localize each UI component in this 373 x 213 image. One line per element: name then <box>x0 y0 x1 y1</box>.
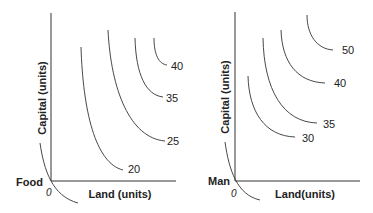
y-axis-label: Capital (units) <box>36 61 48 135</box>
isoquant-label: 25 <box>167 135 179 147</box>
isoquant-label: 20 <box>128 163 140 175</box>
product-label: Food <box>16 176 43 188</box>
product-label: Man <box>208 175 230 187</box>
isoquant-label: 30 <box>302 132 314 144</box>
panel-man: 30 35 40 50 Capital (units) Land(units) … <box>208 12 360 200</box>
y-axis-label: Capital (units) <box>219 60 231 134</box>
isoquant-35 <box>263 38 317 123</box>
isoquant-label: 40 <box>171 60 183 72</box>
x-axis-label: Land(units) <box>275 188 335 200</box>
isoquant-50 <box>307 15 333 50</box>
isoquant-35 <box>135 38 163 97</box>
isoquant-label: 35 <box>166 92 178 104</box>
isoquant-20 <box>81 47 123 170</box>
origin-label: 0 <box>231 188 237 199</box>
x-axis-label: Land (units) <box>89 188 152 200</box>
isoquant-label: 50 <box>342 44 354 56</box>
isoquant-30 <box>248 76 295 137</box>
panel-food: 20 25 35 40 Capital (units) Land (units)… <box>16 13 183 203</box>
isoquant-40 <box>281 30 325 83</box>
isoquant-diagram: 20 25 35 40 Capital (units) Land (units)… <box>0 0 373 213</box>
isoquant-40 <box>154 38 167 65</box>
isoquant-label: 35 <box>323 118 335 130</box>
isoquant-label: 40 <box>334 77 346 89</box>
origin-label: 0 <box>46 187 52 198</box>
isoquant-25 <box>108 30 165 141</box>
